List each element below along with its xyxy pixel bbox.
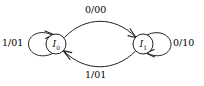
transition-label-right: 0/10 — [173, 38, 194, 48]
state-transition-diagram: I0 I1 0/00 1/01 1/01 0/10 — [0, 0, 204, 86]
transition-arc-bottom — [64, 51, 136, 67]
state-subscript-i0: 0 — [56, 44, 60, 51]
transition-arc-top — [65, 21, 136, 37]
transition-label-bottom: 1/01 — [85, 70, 106, 80]
transition-label-top: 0/00 — [85, 5, 106, 15]
transition-label-left: 1/01 — [2, 38, 23, 48]
state-subscript-i1: 1 — [143, 44, 147, 51]
